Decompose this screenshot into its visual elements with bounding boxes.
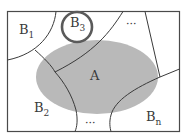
right-boundary xyxy=(160,69,180,77)
label-a: A xyxy=(89,68,100,83)
ellipsis-bottom: ··· xyxy=(85,117,96,130)
label-b3: B3 xyxy=(70,15,86,33)
label-b2: B2 xyxy=(34,100,49,118)
label-bn: Bn xyxy=(146,109,162,127)
label-b1: B1 xyxy=(19,22,34,40)
partition-diagram: B1 B3 A B2 Bn ··· ··· xyxy=(0,0,186,139)
ellipsis-top: ··· xyxy=(126,18,137,31)
